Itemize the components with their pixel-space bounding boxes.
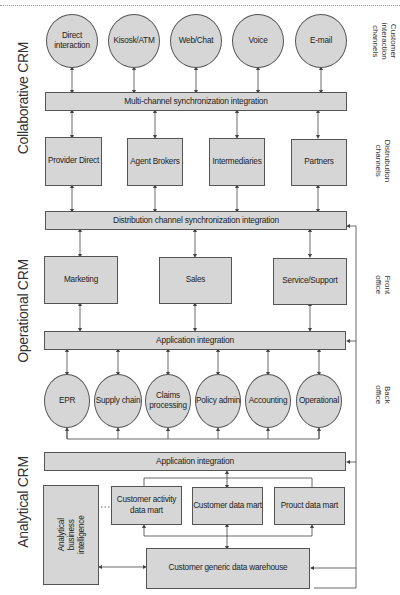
channel-voice: Voice <box>232 14 284 68</box>
channel-direct-interaction: Direct interaction <box>46 14 98 68</box>
side-label-front-office: Front office <box>373 255 391 315</box>
back-policy-admin: Policy admin <box>195 374 241 428</box>
back-operational: Operational <box>296 374 342 428</box>
channel-kiosk-atm: Kisosk/ATM <box>108 14 160 68</box>
front-sales: Sales <box>159 257 232 304</box>
distribution-sync-bar: Distribution channel synchronization int… <box>45 211 347 230</box>
channel-label: Direct interaction <box>54 31 90 52</box>
customer-generic-data-warehouse: Customer generic data warehouse <box>146 548 310 589</box>
analytical-business-intelligence: Analytical business intelligence <box>43 485 99 585</box>
channel-label: Voice <box>248 36 267 46</box>
bi-label: Analytical business intelligence <box>56 516 86 555</box>
mart-customer-data: Customer data mart <box>192 487 263 525</box>
channel-email: E-mail <box>295 14 347 68</box>
channel-web-chat: Web/Chat <box>170 14 222 68</box>
back-supply-chain: Supply chain <box>94 374 142 428</box>
section-label-operational: Operational CRM <box>15 256 31 366</box>
mart-label: Customer activity data mart <box>117 495 176 516</box>
dist-intermediaries: Intermediaries <box>209 138 265 186</box>
channel-label: E-mail <box>310 36 332 46</box>
side-label-distribution: Distrubution channels <box>373 131 391 191</box>
application-integration-bar-2: Application integration <box>44 452 346 471</box>
back-label: Claims processing <box>149 391 187 412</box>
section-label-analytical: Analytical CRM <box>15 452 31 552</box>
channel-label: Kisosk/ATM <box>113 36 154 46</box>
dist-agent-brokers: Agent Brokers <box>127 138 183 186</box>
section-label-collaborative: Collaborative CRM <box>15 38 31 158</box>
back-epr: EPR <box>44 374 90 428</box>
side-label-back-office: Back office <box>373 365 391 425</box>
multichannel-sync-bar: Multi-channel synchronization integratio… <box>45 92 347 111</box>
mart-customer-activity: Customer activity data mart <box>111 486 182 525</box>
application-integration-bar-1: Application integration <box>44 331 346 350</box>
dist-partners: Partners <box>291 139 347 186</box>
mart-product-data: Prouct data mart <box>274 487 345 525</box>
channel-label: Web/Chat <box>179 36 214 46</box>
front-service-support: Service/Support <box>273 258 347 305</box>
back-accounting: Accounting <box>245 374 291 428</box>
dist-provider-direct: Provider Direct <box>45 137 102 186</box>
side-label-customer-interaction: Customer interaction channels <box>371 11 397 71</box>
back-claims-processing: Claims processing <box>145 374 191 428</box>
front-marketing: Marketing <box>44 256 118 304</box>
